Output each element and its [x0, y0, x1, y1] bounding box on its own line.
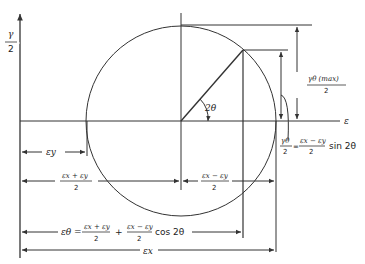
gamma-max-den: 2	[324, 87, 328, 95]
eps-theta-plus: +	[115, 227, 123, 237]
gamma-theta-den: 2	[283, 148, 287, 156]
avg-den: 2	[74, 184, 78, 192]
eps-theta-lhs: εθ =	[61, 227, 82, 237]
diff-num: εx − εy	[202, 172, 229, 180]
epsilon-axis-label: ε	[344, 116, 349, 126]
gamma-theta-eq: =	[293, 143, 299, 151]
avg-num: εx + εy	[62, 172, 89, 180]
gamma-axis-label: γ	[8, 29, 14, 39]
gamma-theta-rhs-den: 2	[309, 148, 313, 156]
gamma-theta-rhs-num: εx − εy	[300, 137, 327, 145]
eps-theta-t2-num: εx − εy	[127, 223, 154, 231]
eps-theta-t2-den: 2	[137, 235, 141, 243]
eps-theta-t1-den: 2	[94, 235, 98, 243]
mohr-circle-diagram: γ 2 ε 2θ γθ (max) 2 γθ 2 = εx − εy 2 sin…	[0, 0, 365, 264]
eps-theta-t1-num: εx + εy	[84, 223, 111, 231]
diff-den: 2	[212, 184, 216, 192]
gamma-axis-den: 2	[8, 44, 14, 54]
gamma-theta-trig: sin 2θ	[329, 141, 356, 151]
gamma-theta-label: γθ	[281, 137, 290, 145]
eps-y-label: εy	[46, 147, 57, 157]
eps-x-label: εx	[143, 246, 153, 256]
eps-theta-trig: cos 2θ	[155, 227, 185, 237]
angle-label: 2θ	[204, 103, 217, 113]
gamma-max-label: γθ (max)	[308, 75, 339, 83]
